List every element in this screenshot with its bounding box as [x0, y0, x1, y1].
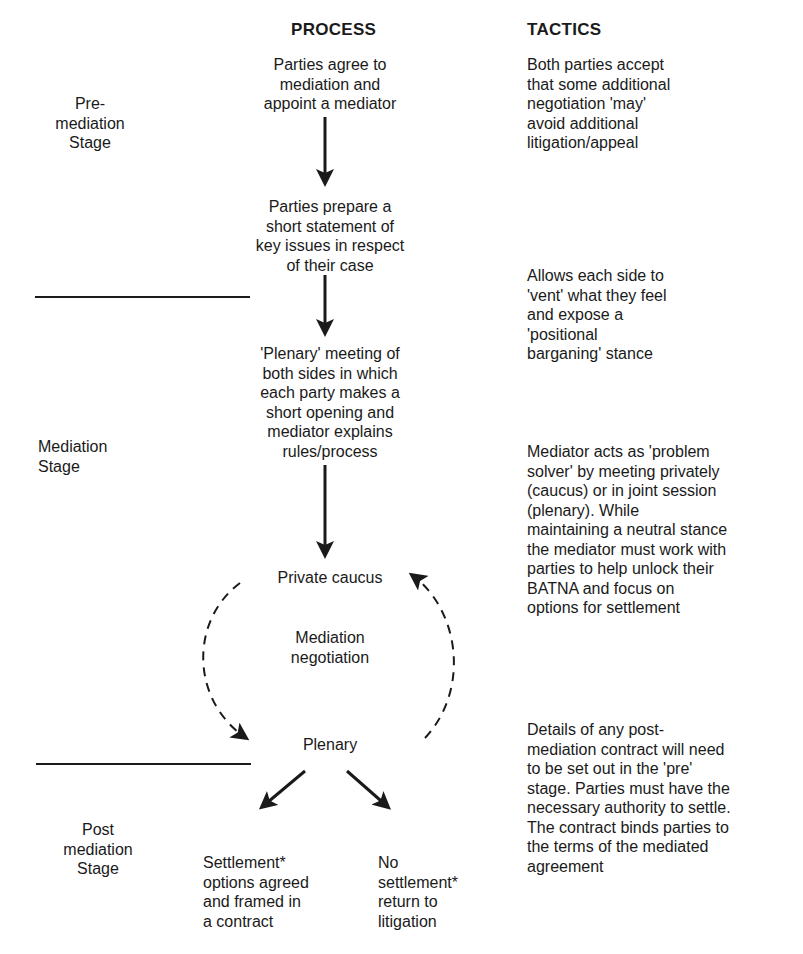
- arrow-to-settlement-icon: [262, 771, 305, 807]
- dashed-arrow-plenary-to-caucus-icon: [412, 575, 454, 738]
- dashed-arrow-caucus-to-plenary-icon: [203, 583, 246, 738]
- diagram-connectors: [0, 0, 803, 954]
- arrow-to-no-settlement-icon: [347, 771, 388, 807]
